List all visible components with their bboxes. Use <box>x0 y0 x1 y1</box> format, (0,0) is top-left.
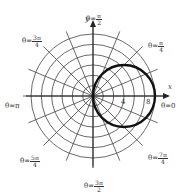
grid-spoke <box>44 96 94 146</box>
tick-label-8: 8 <box>146 99 150 106</box>
x-axis-label: x <box>168 84 172 91</box>
grid-spoke <box>93 47 143 97</box>
angle-label-7pi-4: θ=7π4 <box>148 152 168 165</box>
angle-label-3pi-2: θ=3π2 <box>84 180 104 192</box>
grid-spoke <box>44 47 94 97</box>
angle-label-5pi-4: θ=5π4 <box>20 155 40 168</box>
angle-label-pi-2: θ=π2 <box>86 13 102 26</box>
grid-spoke <box>93 96 143 146</box>
angle-label-3pi-4: θ=3π4 <box>22 35 42 48</box>
angle-label-pi-4: θ=π4 <box>148 40 164 53</box>
tick-label-4: 4 <box>121 99 125 106</box>
x-axis-arrow-icon <box>163 93 170 99</box>
angle-label-0: θ=0 <box>161 103 176 110</box>
angle-label-pi: θ=π <box>5 103 20 110</box>
